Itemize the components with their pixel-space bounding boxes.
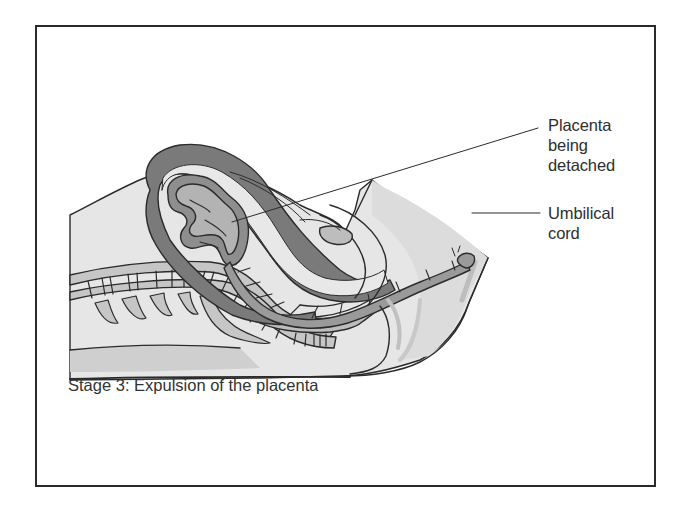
label-line: being bbox=[548, 135, 615, 155]
lower-band bbox=[70, 346, 260, 372]
label-placenta-being-detached: Placenta being detached bbox=[548, 115, 615, 175]
childbirth-stage3-illustration bbox=[0, 0, 696, 513]
figure-caption: Stage 3: Expulsion of the placenta bbox=[68, 375, 318, 395]
label-line: detached bbox=[548, 155, 615, 175]
label-line: Placenta bbox=[548, 115, 615, 135]
label-umbilical-cord: Umbilical cord bbox=[548, 203, 614, 243]
label-line: Umbilical bbox=[548, 203, 614, 223]
label-line: cord bbox=[548, 223, 614, 243]
